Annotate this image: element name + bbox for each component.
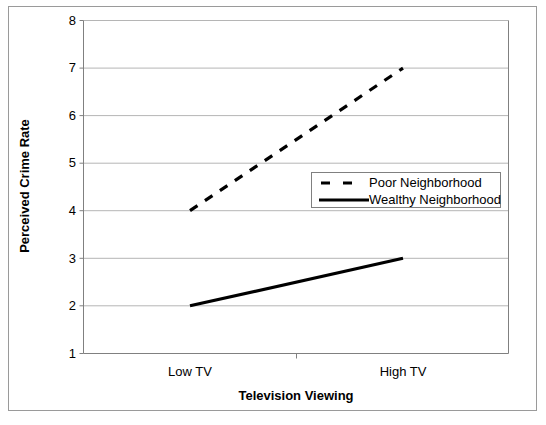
y-tick-label-7: 7: [56, 61, 76, 74]
legend-item-wealthy-neighborhood: Wealthy Neighborhood: [312, 191, 502, 208]
y-tick-marks: [80, 21, 84, 354]
x-tick-label-low-tv: Low TV: [150, 365, 230, 378]
y-tick-label-3: 3: [56, 252, 76, 265]
y-tick-label-8: 8: [56, 14, 76, 27]
y-axis-title: Perceived Crime Rate: [17, 96, 32, 276]
legend-label-poor-neighborhood: Poor Neighborhood: [369, 176, 482, 190]
chart-plot-area: [0, 0, 546, 425]
legend-label-wealthy-neighborhood: Wealthy Neighborhood: [369, 193, 501, 207]
x-axis-title: Television Viewing: [83, 388, 509, 403]
legend-item-poor-neighborhood: Poor Neighborhood: [312, 174, 502, 191]
x-tick-label-high-tv: High TV: [363, 365, 443, 378]
chart-legend: Poor Neighborhood Wealthy Neighborhood: [311, 172, 501, 208]
y-tick-label-1: 1: [56, 347, 76, 360]
y-tick-label-5: 5: [56, 156, 76, 169]
legend-swatch-dashed-icon: [317, 176, 369, 190]
legend-swatch-solid-icon: [317, 193, 369, 207]
y-tick-label-4: 4: [56, 204, 76, 217]
y-tick-label-2: 2: [56, 299, 76, 312]
y-tick-label-6: 6: [56, 109, 76, 122]
